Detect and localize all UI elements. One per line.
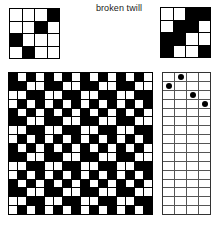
treadling-cell[interactable] — [175, 117, 186, 125]
grid-cell[interactable] — [126, 171, 134, 179]
grid-cell[interactable] — [35, 47, 47, 59]
grid-cell[interactable] — [99, 109, 107, 117]
grid-cell[interactable] — [99, 162, 107, 170]
grid-cell[interactable] — [45, 126, 53, 134]
grid-cell[interactable] — [126, 109, 134, 117]
grid-cell[interactable] — [108, 135, 116, 143]
treadling-cell[interactable] — [187, 153, 198, 161]
grid-cell[interactable] — [18, 171, 26, 179]
grid-cell[interactable] — [117, 180, 125, 188]
treadling-cell[interactable] — [187, 126, 198, 134]
treadling-cell[interactable] — [187, 82, 198, 90]
grid-cell[interactable] — [90, 82, 98, 90]
treadling-cell[interactable] — [187, 171, 198, 179]
grid-cell[interactable] — [54, 109, 62, 117]
treadling-cell[interactable] — [175, 171, 186, 179]
grid-cell[interactable] — [144, 197, 152, 205]
grid-cell[interactable] — [99, 197, 107, 205]
grid-cell[interactable] — [108, 197, 116, 205]
grid-cell[interactable] — [72, 73, 80, 81]
treadling-cell[interactable] — [163, 109, 174, 117]
treadling-cell[interactable] — [175, 109, 186, 117]
treadling-cell[interactable] — [175, 135, 186, 143]
grid-cell[interactable] — [63, 206, 71, 214]
grid-cell[interactable] — [144, 144, 152, 152]
grid-cell[interactable] — [144, 126, 152, 134]
grid-cell[interactable] — [72, 180, 80, 188]
grid-cell[interactable] — [9, 100, 17, 108]
grid-cell[interactable] — [135, 171, 143, 179]
grid-cell[interactable] — [45, 206, 53, 214]
grid-cell[interactable] — [81, 109, 89, 117]
grid-cell[interactable] — [54, 144, 62, 152]
grid-cell[interactable] — [144, 109, 152, 117]
grid-cell[interactable] — [72, 144, 80, 152]
grid-cell[interactable] — [45, 153, 53, 161]
grid-cell[interactable] — [54, 197, 62, 205]
grid-cell[interactable] — [48, 9, 60, 21]
grid-cell[interactable] — [126, 162, 134, 170]
treadling-cell[interactable] — [175, 162, 186, 170]
grid-cell[interactable] — [99, 144, 107, 152]
grid-cell[interactable] — [18, 100, 26, 108]
grid-cell[interactable] — [117, 91, 125, 99]
grid-cell[interactable] — [135, 82, 143, 90]
grid-cell[interactable] — [36, 109, 44, 117]
grid-cell[interactable] — [199, 33, 211, 45]
grid-cell[interactable] — [81, 91, 89, 99]
grid-cell[interactable] — [90, 144, 98, 152]
grid-cell[interactable] — [161, 33, 173, 45]
treadling-cell[interactable] — [199, 153, 210, 161]
grid-cell[interactable] — [72, 117, 80, 125]
grid-cell[interactable] — [186, 21, 198, 33]
grid-cell[interactable] — [199, 8, 211, 20]
grid-cell[interactable] — [9, 180, 17, 188]
grid-cell[interactable] — [27, 188, 35, 196]
grid-cell[interactable] — [90, 135, 98, 143]
treadling-cell[interactable] — [199, 73, 210, 81]
grid-cell[interactable] — [45, 162, 53, 170]
treadling-cell[interactable] — [163, 180, 174, 188]
grid-cell[interactable] — [161, 21, 173, 33]
grid-cell[interactable] — [144, 100, 152, 108]
grid-cell[interactable] — [72, 162, 80, 170]
grid-cell[interactable] — [126, 73, 134, 81]
treadling-cell[interactable] — [199, 171, 210, 179]
treadling-cell[interactable] — [199, 135, 210, 143]
treadling-cell[interactable] — [175, 91, 186, 99]
treadling-cell[interactable] — [187, 91, 198, 99]
treadling-cell[interactable] — [187, 188, 198, 196]
threading-draft[interactable] — [9, 8, 60, 59]
grid-cell[interactable] — [54, 82, 62, 90]
grid-cell[interactable] — [135, 197, 143, 205]
grid-cell[interactable] — [9, 144, 17, 152]
grid-cell[interactable] — [36, 100, 44, 108]
grid-cell[interactable] — [174, 21, 186, 33]
treadling-cell[interactable] — [175, 100, 186, 108]
grid-cell[interactable] — [108, 162, 116, 170]
grid-cell[interactable] — [117, 188, 125, 196]
grid-cell[interactable] — [135, 100, 143, 108]
grid-cell[interactable] — [18, 126, 26, 134]
grid-cell[interactable] — [9, 109, 17, 117]
treadling-cell[interactable] — [163, 91, 174, 99]
treadling-cell[interactable] — [163, 73, 174, 81]
treadling-cell[interactable] — [199, 126, 210, 134]
grid-cell[interactable] — [144, 171, 152, 179]
grid-cell[interactable] — [126, 188, 134, 196]
grid-cell[interactable] — [18, 91, 26, 99]
grid-cell[interactable] — [72, 206, 80, 214]
grid-cell[interactable] — [135, 73, 143, 81]
treadling-draft[interactable] — [162, 72, 211, 215]
grid-cell[interactable] — [18, 153, 26, 161]
treadling-cell[interactable] — [175, 126, 186, 134]
treadling-cell[interactable] — [199, 144, 210, 152]
grid-cell[interactable] — [18, 144, 26, 152]
treadling-cell[interactable] — [163, 126, 174, 134]
grid-cell[interactable] — [9, 117, 17, 125]
treadling-cell[interactable] — [187, 117, 198, 125]
grid-cell[interactable] — [72, 188, 80, 196]
grid-cell[interactable] — [135, 188, 143, 196]
grid-cell[interactable] — [126, 180, 134, 188]
grid-cell[interactable] — [135, 153, 143, 161]
